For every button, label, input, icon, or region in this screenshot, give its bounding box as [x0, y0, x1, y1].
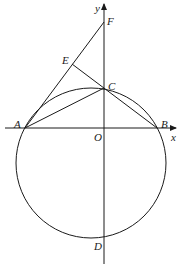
- segment-AC: [25, 88, 104, 128]
- geometry-diagram: y F E C A B O x D: [0, 0, 179, 273]
- label-y: y: [94, 2, 100, 14]
- segment-EB: [72, 64, 157, 128]
- label-B: B: [161, 118, 168, 130]
- label-O: O: [94, 131, 102, 143]
- label-C: C: [108, 80, 116, 92]
- label-F: F: [106, 15, 114, 27]
- segment-AF: [25, 22, 104, 128]
- label-x: x: [170, 131, 176, 143]
- label-E: E: [61, 54, 69, 66]
- label-D: D: [93, 240, 102, 252]
- label-A: A: [13, 118, 21, 130]
